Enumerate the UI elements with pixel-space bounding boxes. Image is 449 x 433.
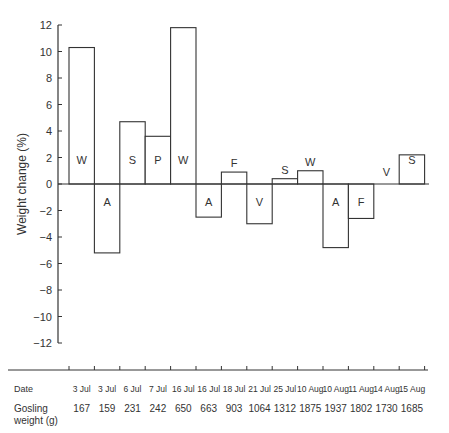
- date-row-label: Date: [14, 384, 33, 394]
- bar: [221, 172, 246, 184]
- bar-label: F: [358, 196, 365, 208]
- y-tick-label: 10: [40, 46, 52, 58]
- y-axis-label: Weight change (%): [15, 133, 29, 235]
- y-tick-label: −10: [33, 311, 52, 323]
- bar-label: S: [281, 164, 288, 176]
- bar-label: W: [178, 154, 189, 166]
- bar: [94, 184, 119, 253]
- y-tick-label: 0: [46, 178, 52, 190]
- y-tick-label: 12: [40, 19, 52, 31]
- y-tick-label: −6: [39, 258, 52, 270]
- bar-label: A: [332, 196, 340, 208]
- y-tick-label: −12: [33, 337, 52, 349]
- y-tick-label: 6: [46, 99, 52, 111]
- bar-label: A: [205, 196, 213, 208]
- bar-label: W: [305, 156, 316, 168]
- bar: [120, 122, 145, 184]
- bar: [272, 179, 297, 184]
- bar-label: W: [77, 154, 88, 166]
- weight-row-label-2: weight (g): [14, 415, 58, 426]
- bars: WASPWAFVSWAFVS: [69, 28, 425, 253]
- bar-label: V: [256, 196, 264, 208]
- bar-label: F: [231, 157, 238, 169]
- y-tick-label: −4: [39, 231, 52, 243]
- date-axis: [8, 366, 428, 370]
- weight-row-label-1: Gosling: [14, 403, 48, 414]
- weight-cell: 1685: [396, 403, 428, 414]
- bar-label: S: [408, 154, 415, 166]
- y-tick-label: 4: [46, 125, 52, 137]
- date-cell: 15 Aug: [397, 384, 427, 394]
- weight-change-chart: 121086420−2−4−6−8−10−12 Weight change (%…: [0, 0, 449, 433]
- y-tick-label: 8: [46, 72, 52, 84]
- bar-label: P: [154, 154, 161, 166]
- y-tick-label: 2: [46, 152, 52, 164]
- bar: [323, 184, 348, 248]
- svg-text:Weight change (%): Weight change (%): [15, 133, 29, 235]
- bar-label: V: [383, 166, 391, 178]
- bar: [298, 171, 323, 184]
- bar-label: S: [129, 154, 136, 166]
- bar-label: A: [103, 196, 111, 208]
- y-tick-label: −8: [39, 284, 52, 296]
- y-tick-label: −2: [39, 205, 52, 217]
- y-axis: 121086420−2−4−6−8−10−12: [33, 19, 62, 349]
